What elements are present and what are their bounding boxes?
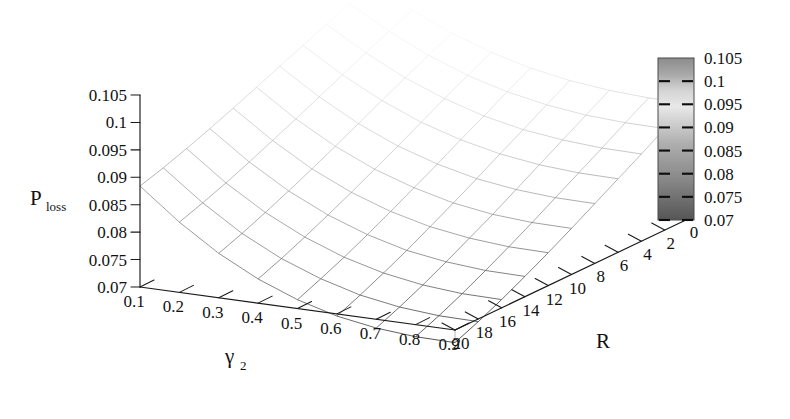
mesh-line [491, 52, 530, 68]
mesh-line [344, 235, 367, 258]
mesh-line [273, 119, 296, 141]
mesh-line [525, 253, 548, 277]
colorbar-label: 0.08 [704, 165, 734, 184]
axis-tick-label: 4 [643, 245, 652, 264]
mesh-line [210, 108, 233, 128]
mesh-line [303, 24, 326, 45]
mesh-line [602, 123, 625, 148]
mesh-line [233, 87, 256, 108]
mesh-line [140, 186, 179, 222]
mesh-line [342, 53, 365, 75]
axis-tick-label: 6 [620, 256, 629, 275]
mesh-line [423, 262, 446, 285]
mesh-line [486, 247, 509, 271]
mesh-line [210, 129, 249, 162]
mesh-line [430, 203, 453, 227]
mesh-line [461, 140, 500, 154]
mesh-line [484, 92, 507, 116]
mesh-line [296, 119, 335, 146]
mesh-line [477, 154, 500, 179]
axis-tick-label: 0.095 [89, 141, 127, 160]
colorbar-label: 0.1 [704, 72, 725, 91]
mesh-line [335, 146, 374, 169]
axis-tick-label: 0.08 [97, 223, 127, 242]
mesh-line [337, 295, 360, 316]
axis-tick-label: 20 [453, 334, 470, 353]
mesh-line [625, 98, 648, 123]
mesh-line [500, 130, 523, 154]
mesh-line [532, 223, 571, 229]
mesh-line [486, 270, 525, 276]
axis-tick-label: 0.8 [399, 330, 420, 349]
mesh-line [280, 66, 319, 97]
mesh-line [328, 192, 351, 215]
mesh-line [405, 55, 428, 78]
mesh-line [265, 212, 304, 237]
mesh-line [509, 223, 532, 247]
mesh-line [351, 192, 390, 211]
mesh-line [509, 247, 548, 253]
mesh-line [445, 99, 484, 116]
mesh-line [257, 66, 280, 87]
mesh-line [382, 100, 421, 122]
mesh-line [477, 179, 516, 190]
mesh-line [179, 222, 218, 253]
axis-tick-label: 0.3 [202, 303, 223, 322]
mesh-line [400, 285, 423, 307]
colorbar-label: 0.09 [704, 118, 734, 137]
mesh-line [319, 75, 342, 97]
mesh-line [595, 179, 618, 204]
mesh-line [453, 179, 476, 203]
mesh-line [249, 140, 272, 162]
axis-segment [258, 296, 272, 303]
mesh-line [405, 78, 444, 99]
mesh-line [586, 115, 625, 123]
axis-tick-label: 14 [522, 301, 540, 320]
mesh-line [312, 169, 351, 192]
mesh-line [563, 140, 602, 148]
mesh-line [579, 148, 602, 173]
axis-segment [652, 223, 665, 230]
axis-tick-label: 0.5 [281, 314, 302, 333]
mesh-line [344, 257, 383, 273]
mesh-line [493, 214, 532, 222]
mesh-line [446, 238, 469, 262]
axis-tick-labels: 0.1050.10.0950.090.0850.080.0750.070.10.… [89, 86, 699, 354]
mesh-line [242, 212, 265, 233]
x-axis-title-sub: 2 [240, 358, 247, 373]
mesh-line [428, 33, 451, 55]
z-axis-title-sub: loss [46, 199, 66, 214]
mesh-line [389, 31, 428, 55]
mesh-line [203, 183, 226, 203]
mesh-line [453, 203, 492, 214]
axis-tick-label: 2 [666, 234, 675, 253]
mesh-line [437, 164, 476, 179]
mesh-line [265, 191, 288, 213]
colorbar-label: 0.095 [704, 95, 742, 114]
mesh-line [579, 173, 618, 179]
axis-segment [512, 290, 525, 297]
mesh-line [281, 237, 304, 259]
mesh-line [281, 259, 320, 279]
mesh-line [289, 191, 328, 215]
mesh-line [342, 75, 381, 101]
mesh-line [547, 105, 586, 115]
axis-segment [140, 280, 154, 287]
mesh-line [242, 233, 281, 258]
mesh-line [430, 227, 469, 238]
mesh-line [219, 233, 242, 253]
mesh-line [523, 105, 546, 130]
axis-segment [628, 234, 641, 241]
mesh-line [478, 300, 501, 322]
colorbar-label: 0.07 [704, 211, 734, 230]
mesh-line [289, 169, 312, 191]
colorbar-labels: 0.1050.10.0950.090.0850.080.0750.07 [704, 49, 742, 230]
mesh-line [383, 250, 406, 273]
mesh-line [437, 140, 460, 164]
axis-tick-label: 8 [597, 267, 606, 286]
mesh-line [226, 183, 265, 213]
mesh-line [516, 190, 555, 198]
mesh-line [258, 279, 297, 300]
surface-plot-figure: 0.1050.10.0950.090.0850.080.0750.070.10.… [0, 0, 790, 419]
z-axis-title-main: P [30, 186, 42, 210]
